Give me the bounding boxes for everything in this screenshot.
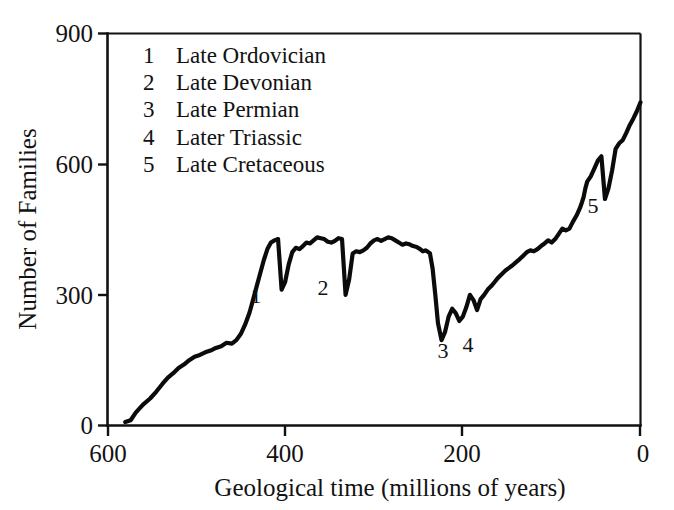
event-marker-5: 5 — [588, 193, 599, 218]
legend-label-3: Late Permian — [176, 97, 300, 122]
event-marker-3: 3 — [438, 338, 449, 363]
x-axis-title: Geological time (millions of years) — [214, 474, 565, 502]
legend-number-3: 3 — [143, 97, 155, 122]
legend: 1 Late Ordovician 2 Late Devonian 3 Late… — [143, 43, 327, 177]
event-markers: 1 2 3 4 5 — [251, 193, 599, 363]
x-tick-label-200: 200 — [443, 440, 481, 467]
y-axis-ticks — [98, 34, 108, 426]
event-marker-1: 1 — [251, 283, 262, 308]
legend-label-1: Late Ordovician — [176, 43, 327, 68]
diversity-curve-line — [125, 102, 640, 422]
event-marker-2: 2 — [318, 275, 329, 300]
legend-number-1: 1 — [143, 43, 155, 68]
x-tick-label-400: 400 — [266, 440, 304, 467]
diversity-curve-chart: 900 600 300 0 600 400 200 0 Number of Fa… — [0, 0, 674, 510]
event-marker-4: 4 — [463, 332, 474, 357]
y-tick-label-300: 300 — [56, 282, 94, 309]
legend-number-4: 4 — [143, 125, 155, 150]
y-tick-label-900: 900 — [56, 20, 94, 47]
y-axis-title: Number of Families — [14, 128, 41, 329]
legend-number-5: 5 — [143, 152, 155, 177]
legend-number-2: 2 — [143, 70, 155, 95]
chart-figure: 900 600 300 0 600 400 200 0 Number of Fa… — [0, 0, 674, 510]
x-tick-label-0: 0 — [637, 440, 650, 467]
x-axis-ticks — [108, 426, 640, 437]
legend-label-4: Later Triassic — [176, 125, 302, 150]
legend-label-2: Late Devonian — [176, 70, 313, 95]
x-tick-label-600: 600 — [89, 440, 127, 467]
legend-label-5: Late Cretaceous — [176, 152, 325, 177]
y-tick-label-600: 600 — [56, 151, 94, 178]
y-tick-label-0: 0 — [81, 412, 94, 439]
